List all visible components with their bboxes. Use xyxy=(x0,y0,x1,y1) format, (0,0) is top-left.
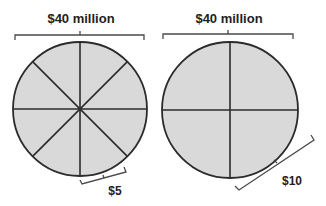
left-total-bracket xyxy=(15,31,144,40)
right-total-bracket xyxy=(163,30,293,39)
diagram-canvas xyxy=(0,0,326,206)
left-total-label: $40 million xyxy=(47,12,114,25)
pie-comparison-diagram: $40 million $40 million $5 $10 xyxy=(0,0,326,206)
left-slice-label: $5 xyxy=(108,185,121,197)
right-pie xyxy=(162,30,314,190)
right-total-label: $40 million xyxy=(195,12,262,25)
left-pie xyxy=(13,31,147,184)
left-pie-dividers xyxy=(13,42,147,176)
right-slice-label: $10 xyxy=(282,175,302,187)
